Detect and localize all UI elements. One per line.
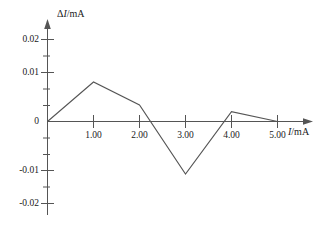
x-tick-label-3.00: 3.00 — [165, 131, 206, 141]
y-axis — [44, 19, 51, 215]
y-tick-label-0.02: 0.02 — [0, 35, 39, 45]
y-axis-title: ΔI/mA — [57, 9, 85, 19]
x-tick-label-2.00: 2.00 — [119, 131, 160, 141]
x-axis — [48, 118, 314, 125]
y-tick-label-neg0.01: -0.01 — [0, 166, 39, 176]
x-tick-label-1.00: 1.00 — [73, 131, 114, 141]
chart-figure: ΔI/mA I/mA 0.02 0.01 0 -0.01 -0.02 1.00 … — [0, 0, 328, 234]
y-axis-arrow-icon — [44, 19, 51, 29]
y-tick-label-0.01: 0.01 — [0, 68, 39, 78]
chart-plot-svg — [0, 0, 328, 234]
y-tick-label-0: 0 — [0, 117, 39, 127]
x-axis-arrow-icon — [303, 118, 313, 125]
x-tick-label-4.00: 4.00 — [211, 131, 252, 141]
x-tick-label-5.00: 5.00 — [257, 131, 298, 141]
y-tick-label-neg0.02: -0.02 — [0, 199, 39, 209]
y-axis-title-unit: /mA — [67, 8, 85, 19]
data-series-line — [48, 82, 278, 174]
